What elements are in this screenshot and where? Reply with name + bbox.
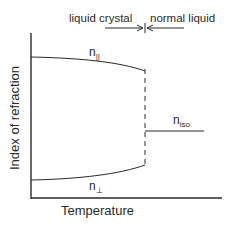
- label-normal-liquid: normal liquid: [150, 12, 215, 24]
- n-parallel-label: n||: [89, 45, 100, 61]
- y-axis-label: Index of refraction: [7, 66, 22, 170]
- n-perpendicular-label: n⊥: [89, 179, 103, 195]
- n-iso-label: niso: [173, 113, 190, 129]
- n-parallel-curve: [31, 57, 145, 71]
- transition-arrows-icon: [105, 23, 184, 33]
- refractive-index-diagram: liquid crystal normal liquid Index of re…: [0, 0, 236, 228]
- n-perpendicular-curve: [31, 165, 145, 180]
- label-liquid-crystal: liquid crystal: [69, 12, 132, 24]
- x-axis-label: Temperature: [61, 203, 134, 218]
